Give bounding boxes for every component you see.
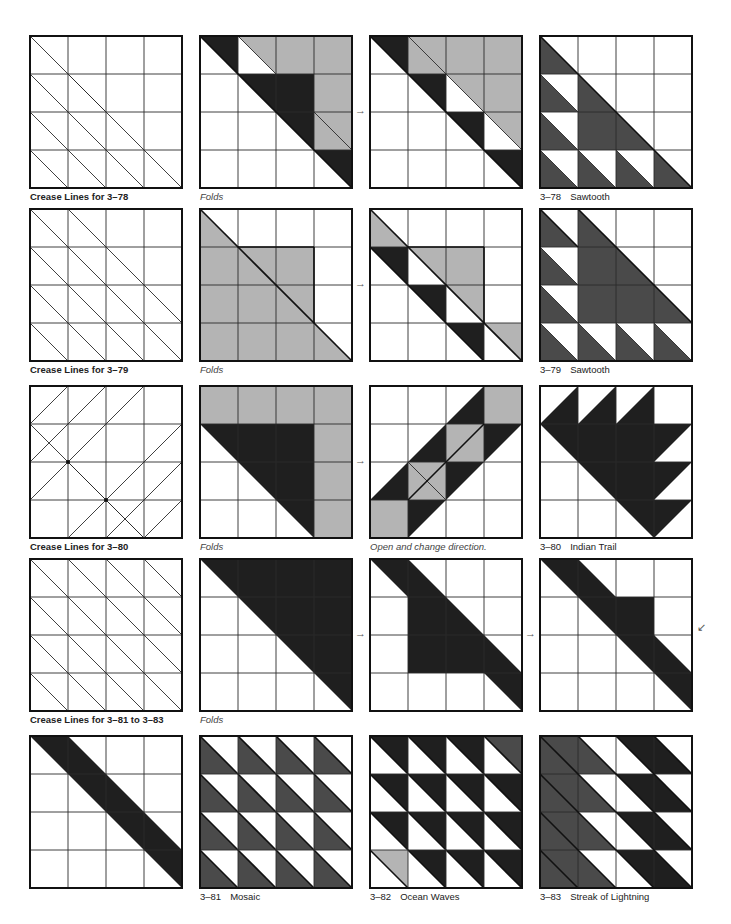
- folds-3-80-caption: Folds: [200, 541, 223, 552]
- caption-text: Crease Lines for 3–78: [30, 191, 128, 202]
- figure-number: 3–79: [540, 364, 561, 375]
- folds-3-81-to-3-83-caption: Folds: [200, 714, 223, 725]
- caption-text: Folds: [200, 191, 223, 202]
- folds-3-79-diagram: [199, 208, 353, 360]
- arrow-down-left-icon: ↙: [697, 622, 706, 633]
- figure-number: 3–81: [200, 891, 221, 902]
- result-3-80-indian-trail-diagram: [539, 385, 693, 537]
- folds-3-78-caption: Folds: [200, 191, 223, 202]
- result-3-79-sawtooth-caption: 3–79Sawtooth: [540, 364, 610, 375]
- figure-number: 3–78: [540, 191, 561, 202]
- folds-3-78-diagram: [199, 35, 353, 187]
- result-3-82-ocean-waves-caption: 3–82Ocean Waves: [370, 891, 459, 902]
- folds-3-80-diagram: [199, 385, 353, 537]
- crease-lines-3-80-caption: Crease Lines for 3–80: [30, 541, 128, 552]
- caption-text: Ocean Waves: [400, 891, 459, 902]
- open-and-change-direction-3-80-caption: Open and change direction.: [370, 541, 487, 552]
- result-3-81-mosaic-caption: 3–81Mosaic: [200, 891, 260, 902]
- crease-lines-3-81-to-3-83-diagram: [29, 558, 183, 710]
- result-3-78-sawtooth-caption: 3–78Sawtooth: [540, 191, 610, 202]
- result-3-83-streak-of-lightning-diagram: [539, 735, 693, 887]
- folded-strip-diagram: [29, 735, 183, 887]
- caption-text: Mosaic: [230, 891, 260, 902]
- result-3-80-indian-trail-caption: 3–80Indian Trail: [540, 541, 617, 552]
- open-and-change-direction-3-80-diagram: [369, 385, 523, 537]
- crease-lines-3-78-diagram: [29, 35, 183, 187]
- caption-text: Indian Trail: [570, 541, 616, 552]
- result-3-81-mosaic-diagram: [199, 735, 353, 887]
- figure-number: 3–83: [540, 891, 561, 902]
- folds-step2-3-78-diagram: [369, 35, 523, 187]
- result-3-83-streak-of-lightning-caption: 3–83Streak of Lightning: [540, 891, 649, 902]
- arrow-right-icon: →: [355, 105, 366, 116]
- caption-text: Sawtooth: [570, 364, 610, 375]
- crease-lines-3-80-diagram: [29, 385, 183, 537]
- folds-step2-3-81-to-3-83-diagram: [369, 558, 523, 710]
- folds-step3-3-81-to-3-83-diagram: [539, 558, 693, 710]
- caption-text: Crease Lines for 3–79: [30, 364, 128, 375]
- caption-text: Crease Lines for 3–80: [30, 541, 128, 552]
- figure-number: 3–80: [540, 541, 561, 552]
- figure-number: 3–82: [370, 891, 391, 902]
- arrow-right-icon: →: [355, 628, 366, 639]
- crease-lines-3-79-diagram: [29, 208, 183, 360]
- crease-lines-3-81-to-3-83-caption: Crease Lines for 3–81 to 3–83: [30, 714, 164, 725]
- arrow-right-icon: →: [525, 628, 536, 639]
- caption-text: Open and change direction.: [370, 541, 487, 552]
- folds-3-81-to-3-83-diagram: [199, 558, 353, 710]
- caption-text: Streak of Lightning: [570, 891, 649, 902]
- result-3-78-sawtooth-diagram: [539, 35, 693, 187]
- folds-3-79-caption: Folds: [200, 364, 223, 375]
- caption-text: Folds: [200, 364, 223, 375]
- arrow-right-icon: →: [355, 278, 366, 289]
- caption-text: Crease Lines for 3–81 to 3–83: [30, 714, 164, 725]
- crease-lines-3-78-caption: Crease Lines for 3–78: [30, 191, 128, 202]
- result-3-79-sawtooth-diagram: [539, 208, 693, 360]
- arrow-right-icon: →: [355, 455, 366, 466]
- caption-text: Folds: [200, 541, 223, 552]
- result-3-82-ocean-waves-diagram: [369, 735, 523, 887]
- caption-text: Folds: [200, 714, 223, 725]
- crease-lines-3-79-caption: Crease Lines for 3–79: [30, 364, 128, 375]
- caption-text: Sawtooth: [570, 191, 610, 202]
- folds-step2-3-79-diagram: [369, 208, 523, 360]
